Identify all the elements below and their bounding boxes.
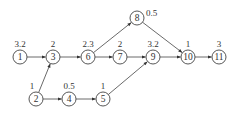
node-label: 6: [86, 52, 91, 62]
node-1: 1: [13, 50, 27, 64]
node-10: 10: [181, 50, 195, 64]
node-label: 8: [135, 13, 140, 23]
node-8: 8: [130, 11, 144, 25]
node-label: 1: [18, 52, 23, 62]
node-11: 11: [212, 50, 226, 64]
node-weight: 2.3: [82, 39, 94, 49]
node-5: 5: [96, 92, 110, 106]
node-label: 10: [183, 52, 193, 62]
node-label: 5: [101, 94, 106, 104]
node-weight: 0.5: [63, 81, 75, 91]
network-diagram: 13.23262.37293.210111380.52140.551: [0, 0, 235, 117]
node-weight: 3.2: [147, 39, 158, 49]
node-weight: 2: [118, 39, 123, 49]
node-3: 3: [46, 50, 60, 64]
node-weight: 1: [101, 81, 106, 91]
node-label: 9: [151, 52, 156, 62]
edge-6-8: [93, 23, 131, 53]
node-label: 2: [34, 94, 39, 104]
node-label: 7: [118, 52, 123, 62]
node-weight: 2: [51, 39, 56, 49]
node-7: 7: [113, 50, 127, 64]
node-weight: 3.2: [14, 39, 25, 49]
edge-5-9: [108, 62, 147, 95]
node-label: 4: [67, 94, 72, 104]
node-weight: 0.5: [146, 8, 158, 18]
node-weight: 3: [217, 39, 222, 49]
node-9: 9: [146, 50, 160, 64]
node-label: 3: [51, 52, 56, 62]
node-2: 2: [29, 92, 43, 106]
node-weight: 1: [186, 39, 191, 49]
node-4: 4: [62, 92, 76, 106]
node-label: 11: [214, 52, 223, 62]
node-6: 6: [81, 50, 95, 64]
node-weight: 1: [30, 81, 35, 91]
edge-2-3: [39, 64, 51, 93]
